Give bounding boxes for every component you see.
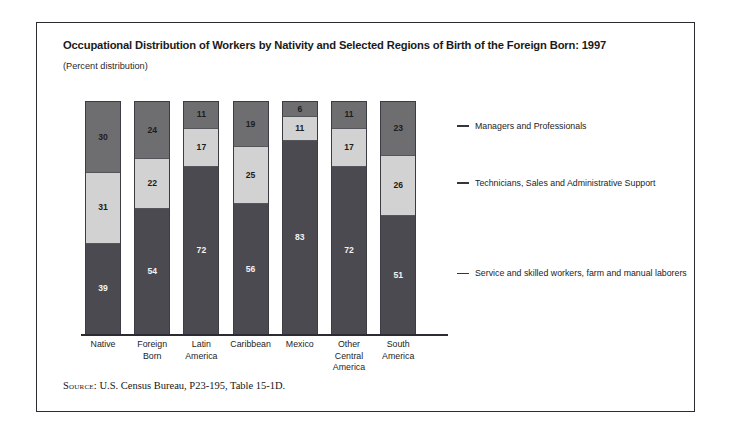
bar-segment[interactable]: 11 [332,102,366,128]
source-note: Source: U.S. Census Bureau, P23-195, Tab… [63,380,285,391]
plot-area: 3031392422541117721925566118311177223265… [85,100,445,335]
category-label-line: South [368,339,428,351]
bar-value-label: 83 [295,233,305,242]
bar-segment[interactable]: 31 [86,172,120,244]
legend-label: Managers and Professionals [475,121,587,131]
chart-subtitle: (Percent distribution) [63,61,148,71]
bar-segment[interactable]: 25 [234,146,268,204]
source-text: U.S. Census Bureau, P23-195, Table 15-1D… [100,380,286,391]
category-label: SouthAmerica [368,339,428,362]
bar-column[interactable]: 111772 [331,101,367,335]
bar-segment[interactable]: 11 [283,116,317,142]
bar-value-label: 39 [98,284,108,293]
bar-segment[interactable]: 22 [135,158,169,209]
bar-value-label: 72 [344,246,354,255]
bar-segment[interactable]: 56 [234,204,268,334]
bar-column[interactable]: 303139 [85,101,121,335]
bar-segment[interactable]: 54 [135,209,169,334]
bar-value-label: 51 [393,271,403,280]
bar-value-label: 17 [344,143,354,152]
bar-segment[interactable]: 39 [86,244,120,334]
bar-segment[interactable]: 6 [283,102,317,116]
legend-connector-icon [457,273,469,275]
source-label: Source: [63,380,97,391]
bar-column[interactable]: 111772 [183,101,219,335]
bar-value-label: 56 [246,265,256,274]
bar-value-label: 6 [297,105,302,114]
bar-value-label: 11 [344,110,353,119]
bar-value-label: 30 [98,133,108,142]
bar-segment[interactable]: 72 [184,167,218,334]
bar-stack: 111772 [183,101,219,335]
legend-item[interactable]: Technicians, Sales and Administrative Su… [457,178,655,188]
bar-value-label: 11 [197,110,206,119]
legend-item[interactable]: Managers and Professionals [457,121,587,131]
bar-stack: 192556 [233,101,269,335]
bar-segment[interactable]: 24 [135,102,169,158]
chart-title: Occupational Distribution of Workers by … [63,39,606,51]
legend-label: Service and skilled workers, farm and ma… [475,268,687,278]
bar-segment[interactable]: 26 [381,155,415,215]
legend-label: Technicians, Sales and Administrative Su… [475,178,655,188]
category-label-line: America [368,351,428,363]
bar-value-label: 19 [246,120,256,129]
bar-segment[interactable]: 51 [381,216,415,334]
bar-segment[interactable]: 23 [381,102,415,155]
bar-segment[interactable]: 19 [234,102,268,146]
bar-stack: 61183 [282,101,318,335]
bar-value-label: 54 [147,267,157,276]
bar-column[interactable]: 232651 [380,101,416,335]
bar-value-label: 23 [393,124,403,133]
bar-segment[interactable]: 72 [332,167,366,334]
bar-value-label: 11 [295,124,304,133]
legend-connector-icon [457,182,469,184]
bar-value-label: 25 [246,171,256,180]
bar-segment[interactable]: 11 [184,102,218,128]
bar-value-label: 24 [147,126,157,135]
category-label-line: America [171,351,231,363]
bar-segment[interactable]: 83 [283,141,317,334]
bar-value-label: 17 [197,143,207,152]
category-label-line: America [319,362,379,374]
bar-value-label: 22 [147,179,157,188]
bar-stack: 232651 [380,101,416,335]
bar-value-label: 31 [98,203,108,212]
bar-value-label: 26 [393,181,403,190]
bar-column[interactable]: 242254 [134,101,170,335]
axis-baseline [81,334,448,336]
bar-stack: 111772 [331,101,367,335]
figure-frame: Occupational Distribution of Workers by … [36,22,695,412]
bar-stack: 242254 [134,101,170,335]
bar-column[interactable]: 61183 [282,101,318,335]
legend-item[interactable]: Service and skilled workers, farm and ma… [457,268,687,278]
bar-segment[interactable]: 17 [332,128,366,167]
bar-value-label: 72 [197,246,207,255]
bar-segment[interactable]: 17 [184,128,218,167]
legend-connector-icon [457,125,469,127]
bar-column[interactable]: 192556 [233,101,269,335]
bar-segment[interactable]: 30 [86,102,120,172]
bar-stack: 303139 [85,101,121,335]
